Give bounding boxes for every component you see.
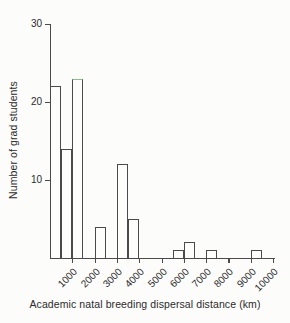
histogram-bar — [251, 250, 262, 258]
x-tick-label: 2000 — [78, 266, 102, 290]
y-axis-label: Number of grad students — [7, 55, 19, 225]
histogram-bar — [72, 79, 83, 258]
x-tick-label: 6000 — [167, 266, 191, 290]
y-tick — [45, 24, 50, 25]
x-tick — [117, 259, 118, 263]
histogram-bar — [173, 250, 184, 258]
x-tick-label: 7000 — [190, 266, 214, 290]
y-tick-label: 10 — [18, 174, 42, 185]
x-tick — [228, 259, 229, 263]
x-tick — [162, 259, 163, 263]
x-tick-label: 8000 — [212, 266, 236, 290]
chart-area: Number of grad students Academic natal b… — [0, 0, 290, 323]
x-tick — [251, 259, 252, 263]
histogram-bar — [184, 242, 195, 258]
x-tick — [95, 259, 96, 263]
y-tick-label: 20 — [18, 96, 42, 107]
x-tick — [184, 259, 185, 263]
histogram-bar — [117, 164, 128, 258]
x-tick-label: 5000 — [145, 266, 169, 290]
histogram-bar — [95, 227, 106, 258]
x-axis-label: Academic natal breeding dispersal distan… — [0, 298, 290, 310]
x-tick-label: 3000 — [100, 266, 124, 290]
figure: Number of grad students Academic natal b… — [0, 0, 290, 323]
histogram-bar — [206, 250, 217, 258]
x-tick-label: 10000 — [252, 266, 279, 293]
histogram-bar — [128, 219, 139, 258]
histogram-bar — [61, 149, 72, 258]
histogram-bar — [50, 86, 61, 258]
x-tick — [273, 259, 274, 263]
x-tick — [72, 259, 73, 263]
x-tick-label: 4000 — [123, 266, 147, 290]
x-tick — [206, 259, 207, 263]
x-tick-label: 1000 — [56, 266, 80, 290]
x-tick — [139, 259, 140, 263]
y-tick-label: 30 — [18, 18, 42, 29]
